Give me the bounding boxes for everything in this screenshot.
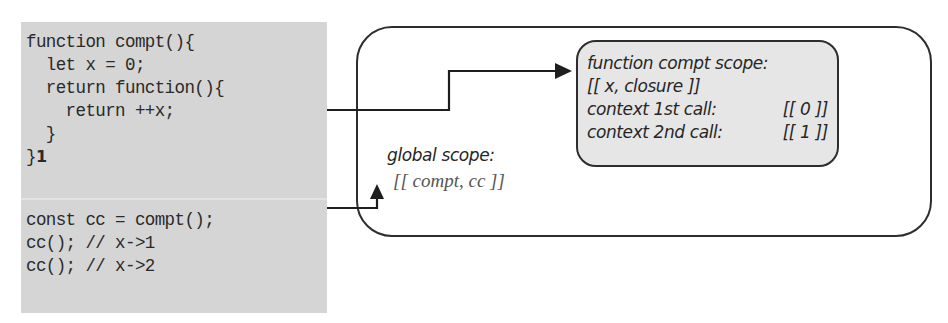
arrowhead-icon <box>370 184 384 199</box>
arrow-function-to-scope <box>327 63 572 110</box>
arrowhead-icon <box>555 63 572 79</box>
connector-arrows <box>0 0 948 323</box>
arrow-usage-to-global <box>327 184 384 208</box>
